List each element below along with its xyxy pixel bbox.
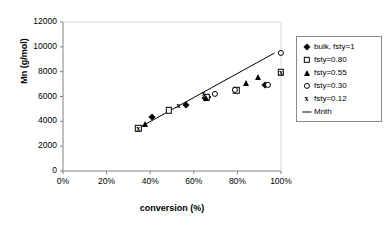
legend-item-5[interactable]: Mnth <box>300 105 379 118</box>
y-tick-label: 10000 <box>15 41 57 51</box>
legend-label: fsty=0.55 <box>313 68 347 77</box>
marker-open-circle-icon <box>303 82 309 88</box>
y-tick-label: 4000 <box>15 115 57 125</box>
y-tick-label: 12000 <box>15 16 57 26</box>
marker-cross-icon: x <box>305 95 309 103</box>
y-tick-label: 2000 <box>15 140 57 150</box>
legend-label: fsty=0.12 <box>313 94 347 103</box>
legend-label: Mnth <box>313 107 332 116</box>
x-tick-label: 60% <box>174 176 214 186</box>
x-axis-title: conversion (%) <box>63 203 281 213</box>
x-tick-label: 20% <box>87 176 127 186</box>
legend-marker <box>300 40 313 53</box>
legend-item-3[interactable]: fsty=0.30 <box>300 79 379 92</box>
legend-label: fsty=0.30 <box>313 81 347 90</box>
legend: bulk, fsty=1fsty=0.80fsty=0.55fsty=0.30x… <box>296 36 382 122</box>
marker-filled-triangle-icon <box>304 70 310 76</box>
x-tick-label: 0% <box>43 176 83 186</box>
x-tick-label: 100% <box>261 176 301 186</box>
legend-item-1[interactable]: fsty=0.80 <box>300 53 379 66</box>
legend-marker <box>300 66 313 79</box>
x-tick-label: 80% <box>217 176 257 186</box>
legend-label: fsty=0.80 <box>313 55 347 64</box>
y-tick-label: 0 <box>15 165 57 175</box>
legend-marker <box>300 79 313 92</box>
legend-item-4[interactable]: xfsty=0.12 <box>300 92 379 105</box>
chart-container: Mn (g/mol) conversion (%) 02000400060008… <box>0 0 390 228</box>
y-tick-label: 6000 <box>15 91 57 101</box>
y-tick-label: 8000 <box>15 66 57 76</box>
x-tick-label: 40% <box>130 176 170 186</box>
legend-item-0[interactable]: bulk, fsty=1 <box>300 40 379 53</box>
marker-line-icon <box>302 111 311 112</box>
legend-item-2[interactable]: fsty=0.55 <box>300 66 379 79</box>
legend-marker <box>300 53 313 66</box>
legend-label: bulk, fsty=1 <box>313 42 355 51</box>
legend-marker: x <box>300 92 313 105</box>
legend-marker <box>300 105 313 118</box>
marker-open-square-icon <box>303 56 309 62</box>
marker-filled-diamond-icon <box>303 43 310 50</box>
